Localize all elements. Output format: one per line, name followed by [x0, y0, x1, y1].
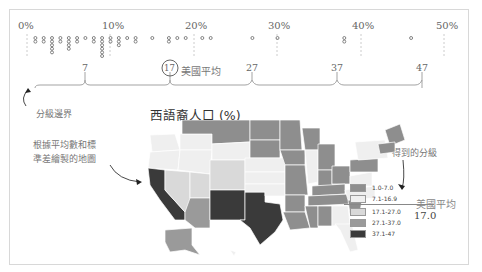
state-ND — [250, 120, 280, 140]
data-dot — [51, 40, 54, 43]
state-AK — [165, 228, 200, 255]
data-dot — [343, 40, 346, 43]
data-dot — [92, 37, 95, 40]
data-dot — [34, 40, 37, 43]
legend-swatch-4 — [350, 219, 366, 227]
data-dot — [117, 40, 120, 43]
legend-item-4: 27.1-37.0 — [350, 218, 401, 227]
data-dot — [201, 37, 204, 40]
state-TX — [240, 192, 283, 245]
us-average-label-legend: 美國平均 — [416, 196, 456, 211]
state-KS — [245, 172, 285, 184]
data-dot — [51, 47, 54, 50]
data-dot — [184, 37, 187, 40]
data-dot — [117, 44, 120, 47]
state-LA — [283, 212, 310, 230]
state-CO — [210, 160, 245, 190]
legend-swatch-5 — [350, 230, 366, 238]
state-AZ — [185, 198, 210, 228]
us-average-label-top: 美國平均 — [181, 63, 221, 78]
data-dot — [209, 37, 212, 40]
data-dot — [343, 37, 346, 40]
data-dot — [101, 44, 104, 47]
legend-item-2: 7.1-16.9 — [350, 194, 397, 203]
data-dot — [42, 40, 45, 43]
state-OR — [148, 150, 180, 170]
us-average-value: 17.0 — [414, 210, 436, 221]
break-label-17: 17 — [164, 63, 175, 73]
state-ID-north — [180, 134, 212, 150]
data-dot — [251, 37, 254, 40]
data-dot — [84, 37, 87, 40]
data-dot — [101, 55, 104, 58]
data-dot — [117, 37, 120, 40]
state-UT — [190, 172, 210, 198]
state-MO — [285, 165, 308, 195]
legend-item-5: 37.1-47 — [350, 229, 395, 238]
data-dot — [126, 37, 129, 40]
data-dot — [67, 40, 70, 43]
state-OH — [332, 166, 350, 184]
data-dot — [151, 37, 154, 40]
legend-swatch-2 — [350, 195, 366, 203]
data-dot — [51, 37, 54, 40]
data-dot — [167, 40, 170, 43]
data-dot — [410, 37, 413, 40]
data-dot — [76, 37, 79, 40]
data-dot — [59, 40, 62, 43]
legend-swatch-1 — [350, 184, 366, 192]
state-NE — [245, 158, 285, 172]
state-PA — [350, 158, 378, 172]
data-dot — [67, 47, 70, 50]
state-WI — [302, 128, 320, 150]
break-label-27: 27 — [246, 62, 258, 73]
state-WY — [212, 142, 250, 160]
state-ID — [178, 150, 212, 174]
data-dot — [101, 51, 104, 54]
data-dot — [176, 37, 179, 40]
data-dot — [42, 37, 45, 40]
legend-item-1: 1.0-7.0 — [350, 183, 393, 192]
state-MN — [280, 120, 302, 150]
state-AL — [318, 206, 332, 226]
state-HI — [230, 250, 236, 256]
data-dot — [67, 37, 70, 40]
break-label-37: 37 — [331, 62, 343, 73]
state-WA — [150, 134, 180, 152]
data-dot — [92, 40, 95, 43]
state-GA — [332, 206, 350, 226]
legend-item-3: 17.1-27.0 — [350, 207, 401, 216]
state-IN — [318, 170, 332, 186]
data-dot — [101, 47, 104, 50]
data-dot — [59, 37, 62, 40]
data-dot — [51, 51, 54, 54]
data-dot — [101, 37, 104, 40]
state-NM — [210, 190, 245, 220]
dot-strip-plot — [0, 0, 482, 120]
state-IL — [305, 150, 318, 184]
data-dot — [76, 40, 79, 43]
break-label-47: 47 — [416, 62, 428, 73]
state-NE-states — [378, 142, 395, 154]
state-SD — [250, 140, 280, 158]
data-dot — [34, 37, 37, 40]
legend-swatch-3 — [350, 208, 366, 216]
data-dot — [134, 37, 137, 40]
state-AR — [285, 195, 305, 212]
data-dot — [134, 40, 137, 43]
data-dot — [51, 44, 54, 47]
data-dot — [167, 37, 170, 40]
data-dot — [101, 40, 104, 43]
data-dot — [67, 44, 70, 47]
break-label-7: 7 — [82, 62, 88, 73]
class-boundary-annotation: 分級邊界 — [36, 107, 72, 120]
